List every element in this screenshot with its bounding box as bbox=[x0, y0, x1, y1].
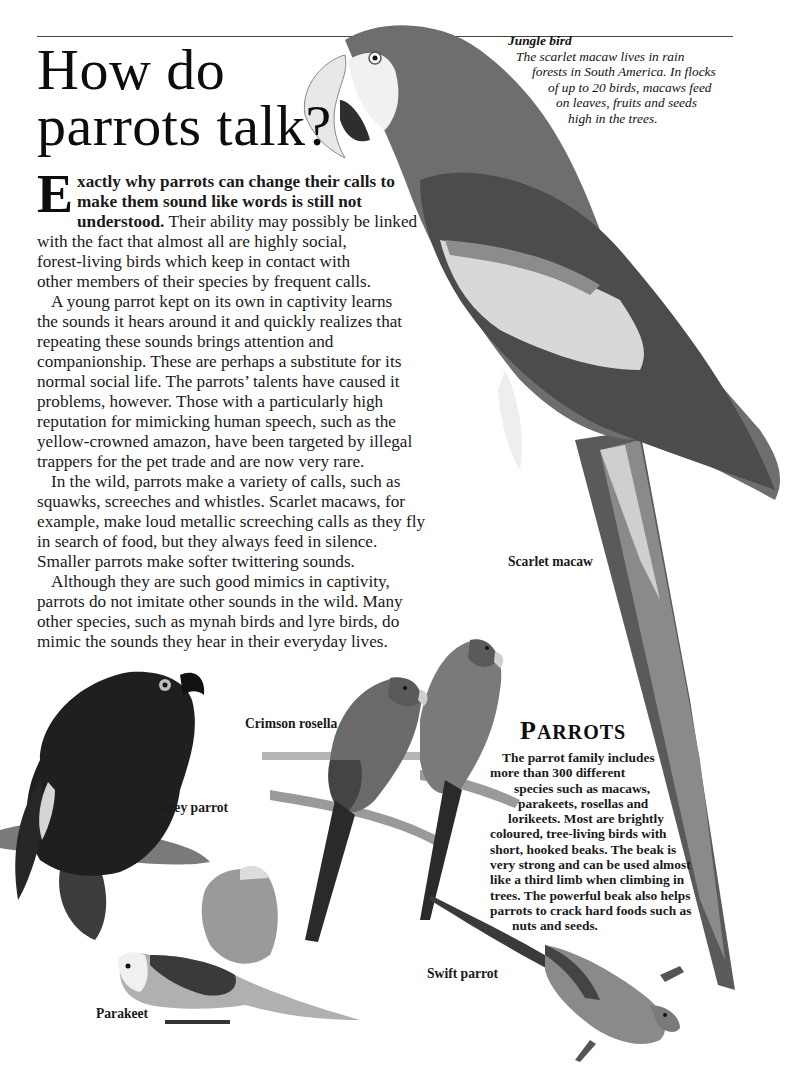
paragraph-3: In the wild, parrots make a variety of c… bbox=[37, 472, 437, 572]
info-line: like a third limb when climbing in bbox=[490, 872, 730, 887]
info-box-title: PARROTS bbox=[520, 716, 626, 746]
article-body: E xactly why parrots can change their ca… bbox=[37, 172, 437, 652]
paragraph-1: E xactly why parrots can change their ca… bbox=[37, 172, 437, 292]
caption-line: forests in South America. In flocks bbox=[508, 64, 738, 80]
info-line: The parrot family includes bbox=[490, 750, 730, 765]
caption-line: high in the trees. bbox=[508, 111, 738, 127]
body-line: In the wild, parrots make a variety of c… bbox=[37, 472, 437, 492]
info-line: coloured, tree-living birds with bbox=[490, 826, 730, 841]
caption-line: of up to 20 birds, macaws feed bbox=[508, 80, 738, 96]
info-line: parrots to crack hard foods such as bbox=[490, 903, 730, 918]
jungle-bird-caption: Jungle bird The scarlet macaw lives in r… bbox=[508, 33, 738, 127]
label-parakeet: Parakeet bbox=[96, 1006, 148, 1022]
body-line: Smaller parrots make softer twittering s… bbox=[37, 552, 437, 572]
caption-line: The scarlet macaw lives in rain bbox=[508, 49, 738, 65]
caption-line: on leaves, fruits and seeds bbox=[508, 95, 738, 111]
paragraph-2: A young parrot kept on its own in captiv… bbox=[37, 292, 437, 472]
body-line: problems, however. Those with a particul… bbox=[37, 392, 437, 412]
info-line: nuts and seeds. bbox=[490, 918, 730, 933]
info-line: short, hooked beaks. The beak is bbox=[490, 842, 730, 857]
lead-text: make them sound like words is still not bbox=[37, 192, 437, 212]
body-line: parrots do not imitate other sounds in t… bbox=[37, 592, 437, 612]
title-line-2: parrots talk? bbox=[37, 93, 332, 158]
page-title: How do parrots talk? bbox=[37, 42, 332, 154]
body-line: with the fact that almost all are highly… bbox=[37, 232, 437, 252]
caption-title: Jungle bird bbox=[508, 33, 738, 49]
drop-cap: E bbox=[37, 174, 73, 214]
body-line: the sounds it hears around it and quickl… bbox=[37, 312, 437, 332]
lead-text: xactly why parrots can change their call… bbox=[37, 172, 437, 192]
body-line: repeating these sounds brings attention … bbox=[37, 332, 437, 352]
info-line: species such as macaws, bbox=[490, 781, 730, 796]
body-line: example, make loud metallic screeching c… bbox=[37, 512, 437, 532]
body-line: Their ability may possibly be linked bbox=[164, 212, 417, 231]
info-title-initial: P bbox=[520, 716, 537, 745]
lead-text: understood. bbox=[77, 212, 164, 231]
body-line: other species, such as mynah birds and l… bbox=[37, 612, 437, 632]
label-grey-parrot: Grey parrot bbox=[158, 800, 228, 816]
body-line: Although they are such good mimics in ca… bbox=[37, 572, 437, 592]
info-line: lorikeets. Most are brightly bbox=[490, 811, 730, 826]
body-line: squawks, screeches and whistles. Scarlet… bbox=[37, 492, 437, 512]
body-line: trappers for the pet trade and are now v… bbox=[37, 452, 437, 472]
info-line: more than 300 different bbox=[490, 765, 730, 780]
body-line: reputation for mimicking human speech, s… bbox=[37, 412, 437, 432]
info-line: very strong and can be used almost bbox=[490, 857, 730, 872]
label-swift-parrot: Swift parrot bbox=[427, 966, 498, 982]
label-crimson-rosella: Crimson rosella bbox=[245, 716, 337, 732]
body-line: mimic the sounds they hear in their ever… bbox=[37, 632, 437, 652]
body-line: companionship. These are perhaps a subst… bbox=[37, 352, 437, 372]
body-line: normal social life. The parrots’ talents… bbox=[37, 372, 437, 392]
info-box-text: The parrot family includes more than 300… bbox=[490, 750, 730, 934]
body-line: other members of their species by freque… bbox=[37, 272, 437, 292]
info-line: trees. The powerful beak also helps bbox=[490, 888, 730, 903]
crimson-rosella-illustration bbox=[262, 639, 520, 942]
body-line: A young parrot kept on its own in captiv… bbox=[37, 292, 437, 312]
body-line: yellow-crowned amazon, have been targete… bbox=[37, 432, 437, 452]
info-title-rest: ARROTS bbox=[537, 721, 626, 743]
body-line: in search of food, but they always feed … bbox=[37, 532, 437, 552]
body-line: forest-living birds which keep in contac… bbox=[37, 252, 437, 272]
info-line: parakeets, rosellas and bbox=[490, 796, 730, 811]
paragraph-4: Although they are such good mimics in ca… bbox=[37, 572, 437, 652]
label-scarlet-macaw: Scarlet macaw bbox=[508, 554, 593, 570]
